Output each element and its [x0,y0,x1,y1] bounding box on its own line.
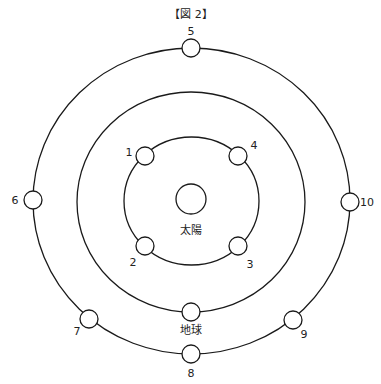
position-number-label: 2 [130,256,137,269]
figure-title: 【図 2】 [169,8,213,21]
earth-label: 地球 [180,323,202,337]
position-number-label: 7 [74,325,81,338]
planet-circle-icon [229,147,247,165]
position-number-label: 5 [188,25,195,38]
planet-circle-icon [284,311,302,329]
planet-circle-icon [182,39,200,57]
planet-circle-icon [24,191,42,209]
planet-position-3: 3 [229,237,254,271]
planet-circle-icon [341,193,359,211]
position-number-label: 4 [251,139,258,152]
planet-position-4: 4 [229,139,258,165]
planet-position-7: 7 [74,310,99,338]
position-number-label: 6 [12,194,19,207]
earth: 地球 [180,303,202,337]
planet-circle-icon [80,310,98,328]
planet-position-2: 2 [130,237,155,269]
planet-position-5: 5 [182,25,200,57]
planet-circle-icon [136,237,154,255]
planet-position-6: 6 [12,191,43,209]
solar-system-diagram: 【図 2】 太陽 地球 12345678910 [0,0,381,384]
planet-circle-icon [229,237,247,255]
sun: 太陽 [176,184,206,237]
sun-label: 太陽 [180,224,202,237]
planet-position-1: 1 [126,146,155,165]
planet-circle-icon [182,345,200,363]
position-number-label: 3 [247,258,254,271]
earth-circle-icon [182,303,200,321]
position-number-label: 1 [126,146,133,159]
position-number-label: 10 [360,196,374,209]
planet-position-9: 9 [284,311,308,341]
planet-position-10: 10 [341,193,374,211]
planet-circle-icon [136,147,154,165]
position-number-label: 9 [301,328,308,341]
position-number-label: 8 [188,367,195,380]
planet-position-8: 8 [182,345,200,380]
sun-circle-icon [176,184,206,214]
diagram-canvas: 【図 2】 太陽 地球 12345678910 [0,0,381,384]
